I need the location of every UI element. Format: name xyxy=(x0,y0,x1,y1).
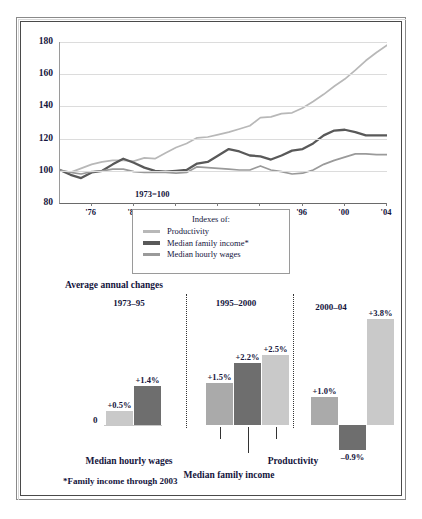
zero-baseline xyxy=(104,425,162,426)
bar-value-label: +2.5% xyxy=(264,344,288,354)
bar-median-family-income xyxy=(339,425,366,450)
x-axis-tick-label: '96 xyxy=(296,207,307,217)
figure-footnote: *Family income through 2003 xyxy=(63,476,178,486)
y-axis-tick-label: 120 xyxy=(19,133,53,143)
legend-item-median-family-income: Median family income* xyxy=(143,238,289,248)
gridline xyxy=(60,106,387,107)
legend-label-median-hourly-wages: Median hourly wages xyxy=(167,249,241,259)
gridline xyxy=(60,42,387,43)
x-axis-tick-mark xyxy=(386,203,387,206)
bar-value-label: +0.5% xyxy=(108,400,132,410)
y-axis-tick-label: 180 xyxy=(19,36,53,46)
legend-item-median-hourly-wages: Median hourly wages xyxy=(143,249,289,259)
y-axis-tick-label: 100 xyxy=(19,165,53,175)
bar-group-title: 1995–2000 xyxy=(216,298,257,308)
bar-productivity xyxy=(367,319,394,425)
x-axis-tick-mark xyxy=(91,203,92,206)
gridline xyxy=(60,74,387,75)
y-axis-tick-label: 160 xyxy=(19,68,53,78)
legend-item-productivity: Productivity xyxy=(143,226,289,236)
gridline xyxy=(60,171,387,172)
group-divider xyxy=(293,294,294,428)
bar-value-label: –0.9% xyxy=(341,452,364,462)
series-callout-median-hourly-wages: Median hourly wages xyxy=(85,456,172,466)
figure-content: 80100120140160180 '76'80'84'88'92'96'00'… xyxy=(21,22,401,495)
group-divider xyxy=(186,294,187,428)
x-axis-tick-mark xyxy=(133,203,134,206)
bar-group-title: 2000–04 xyxy=(315,302,347,312)
x-axis-tick-mark xyxy=(175,203,176,206)
legend-label-productivity: Productivity xyxy=(167,226,209,236)
index-base-annotation: 1973=100 xyxy=(135,189,170,199)
bar-value-label: +1.0% xyxy=(313,386,337,396)
line-chart-plot-area xyxy=(59,42,387,204)
bar-median-hourly-wages xyxy=(206,383,233,425)
line-chart-series-svg xyxy=(60,42,387,203)
x-axis-tick-label: '76 xyxy=(85,207,96,217)
bar-median-hourly-wages xyxy=(106,411,133,425)
x-axis-tick-mark xyxy=(217,203,218,206)
bar-median-family-income xyxy=(234,363,261,425)
bar-median-hourly-wages xyxy=(311,397,338,425)
callout-connector-median-hourly-wages xyxy=(220,427,221,439)
figure-page: 80100120140160180 '76'80'84'88'92'96'00'… xyxy=(0,0,422,519)
zero-axis-label: 0 xyxy=(93,415,98,425)
series-callout-median-family-income: Median family income xyxy=(184,470,275,480)
bar-value-label: +1.4% xyxy=(136,375,160,385)
gridline xyxy=(60,139,387,140)
legend-swatch-productivity xyxy=(143,230,160,233)
x-axis-tick-label: '00 xyxy=(338,207,349,217)
bar-value-label: +2.2% xyxy=(236,352,260,362)
y-axis-tick-label: 140 xyxy=(19,100,53,110)
bar-productivity xyxy=(134,386,161,425)
callout-connector-productivity xyxy=(276,427,277,439)
series-callout-productivity: Productivity xyxy=(268,456,319,466)
y-axis-tick-label: 80 xyxy=(19,197,53,207)
bar-group-title: 1973–95 xyxy=(113,298,145,308)
x-axis-tick-label: '04 xyxy=(381,207,392,217)
bar-value-label: +1.5% xyxy=(208,372,232,382)
legend-swatch-median-hourly-wages xyxy=(143,253,160,256)
x-axis-tick-mark xyxy=(302,203,303,206)
bar-value-label: +3.8% xyxy=(369,308,393,318)
callout-connector-median-family-income xyxy=(248,427,249,453)
bar-productivity xyxy=(262,355,289,425)
x-axis-tick-mark xyxy=(259,203,260,206)
bar-chart: Average annual changes 01973–95+0.5%+1.4… xyxy=(21,280,401,495)
x-axis-tick-mark xyxy=(344,203,345,206)
bar-chart-title: Average annual changes xyxy=(65,280,163,290)
chart-legend: Indexes of: Productivity Median family i… xyxy=(132,209,290,274)
line-chart: 80100120140160180 '76'80'84'88'92'96'00'… xyxy=(21,22,401,202)
legend-swatch-median-family-income xyxy=(143,241,160,245)
legend-label-median-family-income: Median family income* xyxy=(167,238,249,248)
legend-title: Indexes of: xyxy=(133,214,289,224)
